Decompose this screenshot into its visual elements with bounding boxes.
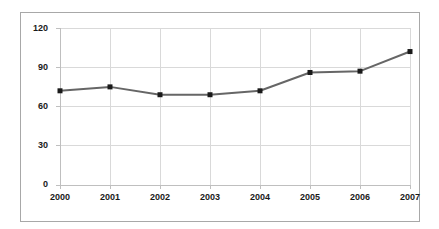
- xtick-label-2006: 2006: [336, 192, 384, 202]
- chart-figure: 120 90 60 30 0 2000 2001 2002 2003 2004 …: [0, 0, 439, 229]
- ytick-label-0: 0: [12, 179, 48, 189]
- ytick-label-120: 120: [12, 23, 48, 33]
- xtick-label-2002: 2002: [136, 192, 184, 202]
- ytick-label-30: 30: [12, 140, 48, 150]
- xtick-label-2001: 2001: [86, 192, 134, 202]
- xtick-label-2007: 2007: [386, 192, 434, 202]
- xtick-label-2000: 2000: [36, 192, 84, 202]
- xtick-label-2005: 2005: [286, 192, 334, 202]
- chart-frame: [20, 12, 420, 222]
- xtick-label-2004: 2004: [236, 192, 284, 202]
- xtick-label-2003: 2003: [186, 192, 234, 202]
- ytick-label-90: 90: [12, 62, 48, 72]
- ytick-label-60: 60: [12, 101, 48, 111]
